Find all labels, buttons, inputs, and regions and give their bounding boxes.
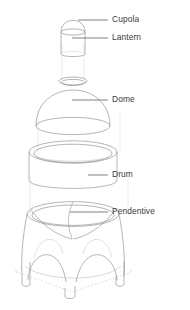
cupola-shape	[61, 20, 85, 35]
lantern-shape	[61, 32, 85, 57]
dome-shape	[36, 77, 110, 135]
drum-shape	[29, 141, 117, 189]
label-cupola: Cupola	[112, 14, 139, 24]
label-lantern: Lantern	[112, 32, 141, 42]
exploded-dome-diagram: Cupola Lantern Dome Drum Pendentive	[0, 0, 190, 310]
footprint-outline	[16, 268, 131, 292]
leader-lines	[70, 20, 108, 212]
label-dome: Dome	[112, 94, 135, 104]
label-pendentive: Pendentive	[112, 206, 155, 216]
label-drum: Drum	[112, 169, 133, 179]
